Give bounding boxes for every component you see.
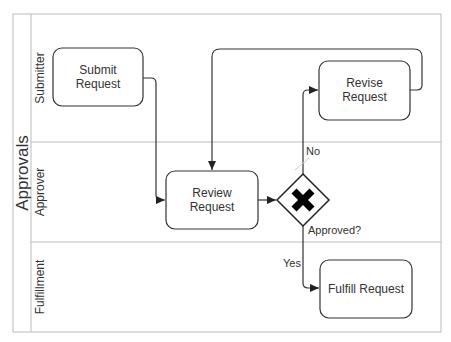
lane-label-fulfillment: Fulfillment xyxy=(33,259,47,314)
task-label: Review xyxy=(192,186,232,200)
pool-title: Approvals xyxy=(13,135,32,211)
task-label: Request xyxy=(342,90,387,104)
flow-label-yes: Yes xyxy=(283,257,301,269)
lane-submitter: Submitter xyxy=(33,52,47,103)
lane-fulfillment: Fulfillment xyxy=(33,259,47,314)
flow-submit-to-review[interactable] xyxy=(143,78,165,200)
exclusive-gateway[interactable] xyxy=(277,174,329,226)
task-submit-request[interactable]: Submit Request xyxy=(53,48,143,106)
task-label: Request xyxy=(76,77,121,91)
condition-marker xyxy=(295,158,309,170)
gateway-label: Approved? xyxy=(308,224,361,236)
task-review-request[interactable]: Review Request xyxy=(166,171,258,229)
task-label: Submit xyxy=(79,63,117,77)
flow-label-no: No xyxy=(306,145,320,157)
bpmn-diagram: Approvals Submitter Approver Fulfillment… xyxy=(0,0,451,342)
task-fulfill-request[interactable]: Fulfill Request xyxy=(320,260,412,318)
lane-label-approver: Approver xyxy=(33,168,47,217)
task-label: Request xyxy=(190,200,235,214)
task-label: Fulfill Request xyxy=(328,282,405,296)
lane-label-submitter: Submitter xyxy=(33,52,47,103)
lane-approver: Approver xyxy=(33,168,47,217)
task-label: Revise xyxy=(346,76,383,90)
task-revise-request[interactable]: Revise Request xyxy=(319,61,410,120)
